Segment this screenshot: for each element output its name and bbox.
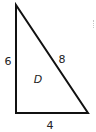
- side-label-hypotenuse: 8: [59, 54, 66, 65]
- side-label-bottom: 4: [47, 120, 54, 131]
- side-label-left: 6: [5, 56, 12, 67]
- triangle-diagram: 6 8 D 4: [0, 0, 96, 132]
- cropped-edge-mark: [93, 20, 96, 28]
- shape-label: D: [34, 74, 42, 85]
- triangle-shape: [0, 0, 96, 132]
